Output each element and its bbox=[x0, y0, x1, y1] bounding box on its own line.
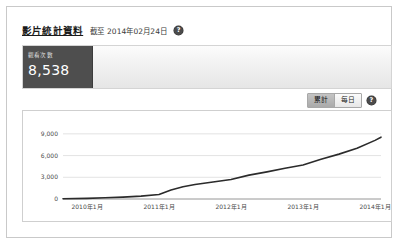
chart-mode-cumulative-button[interactable]: 累計 bbox=[308, 94, 334, 107]
as-of-date: 截至 2014年02月24日 bbox=[90, 25, 167, 36]
cumulative-views-line-chart: 03,0006,0009,000 2010年1月2011年1月2012年1月20… bbox=[23, 111, 391, 221]
x-axis-tick-label: 2010年1月 bbox=[71, 203, 102, 211]
metric-label: 觀看次數 bbox=[28, 51, 92, 59]
x-axis-tick-label: 2011年1月 bbox=[143, 203, 174, 211]
chart-mode-daily-button[interactable]: 每日 bbox=[334, 94, 361, 107]
y-axis-tick-label: 3,000 bbox=[41, 173, 58, 180]
x-axis-tick-label: 2014年1月 bbox=[359, 203, 390, 211]
help-question-icon[interactable]: ? bbox=[174, 26, 183, 35]
views-trend-line bbox=[63, 137, 381, 199]
y-axis-tick-labels: 03,0006,0009,000 bbox=[41, 130, 58, 202]
chart-mode-segmented-control[interactable]: 累計 每日 bbox=[307, 93, 362, 108]
chart-gridlines bbox=[63, 134, 381, 199]
chart-help-question-icon[interactable]: ? bbox=[367, 96, 376, 105]
x-axis-tick-label: 2013年1月 bbox=[287, 203, 318, 211]
y-axis-tick-label: 9,000 bbox=[41, 130, 58, 137]
x-axis-tick-label: 2012年1月 bbox=[215, 203, 246, 211]
x-axis-tick-labels: 2010年1月2011年1月2012年1月2013年1月2014年1月 bbox=[71, 203, 390, 211]
analytics-card: 影片統計資料 截至 2014年02月24日 ? 觀看次數 8,538 累計 每日… bbox=[6, 6, 392, 238]
page-header: 影片統計資料 截至 2014年02月24日 ? bbox=[22, 23, 183, 37]
y-axis-tick-label: 6,000 bbox=[41, 152, 58, 159]
summary-strip-filler bbox=[93, 46, 391, 88]
chart-panel: 03,0006,0009,000 2010年1月2011年1月2012年1月20… bbox=[22, 110, 392, 222]
chart-mode-controls: 累計 每日 ? bbox=[307, 93, 376, 108]
summary-strip: 觀看次數 8,538 bbox=[22, 45, 392, 89]
y-axis-tick-label: 0 bbox=[54, 195, 58, 202]
metric-card-views[interactable]: 觀看次數 8,538 bbox=[23, 46, 93, 88]
page-title: 影片統計資料 bbox=[22, 23, 83, 37]
screenshot-root: 影片統計資料 截至 2014年02月24日 ? 觀看次數 8,538 累計 每日… bbox=[0, 0, 399, 246]
metric-value: 8,538 bbox=[28, 61, 92, 79]
